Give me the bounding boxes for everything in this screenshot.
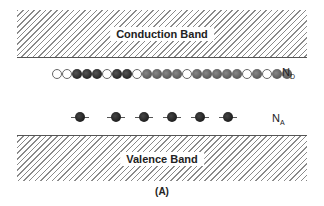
acceptor-dot [75, 112, 85, 122]
donor-state-gray [222, 69, 232, 79]
donor-state-dark [92, 69, 102, 79]
donor-level-row [52, 69, 292, 79]
donor-state-gray [142, 69, 152, 79]
donor-state-empty [262, 69, 272, 79]
donor-state-gray [172, 69, 182, 79]
donor-state-empty [62, 69, 72, 79]
donor-state-gray [192, 69, 202, 79]
donor-state-gray [162, 69, 172, 79]
donor-state-gray [152, 69, 162, 79]
donor-state-dark [112, 69, 122, 79]
donor-state-empty [52, 69, 62, 79]
acceptor-dot [223, 112, 233, 122]
donor-state-gray [202, 69, 212, 79]
conduction-band-label: Conduction Band [110, 27, 214, 41]
conduction-band: Conduction Band [17, 10, 307, 58]
donor-state-empty [182, 69, 192, 79]
acceptor-state [71, 112, 89, 122]
figure-caption: (A) [0, 186, 324, 197]
donor-state-empty [132, 69, 142, 79]
acceptor-dot [111, 112, 121, 122]
acceptor-level-label: NA [272, 112, 285, 126]
acceptor-state [107, 112, 125, 122]
donor-state-empty [242, 69, 252, 79]
donor-state-gray [232, 69, 242, 79]
donor-state-empty [102, 69, 112, 79]
acceptor-dot [167, 112, 177, 122]
acceptor-state [163, 112, 181, 122]
donor-state-dark [122, 69, 132, 79]
acceptor-state [219, 112, 237, 122]
donor-state-dark [72, 69, 82, 79]
valence-band-label: Valence Band [120, 152, 204, 166]
valence-band: Valence Band [17, 135, 307, 181]
donor-state-gray [272, 69, 282, 79]
acceptor-dot [195, 112, 205, 122]
donor-level-label: ND [282, 66, 295, 80]
donor-state-gray [252, 69, 262, 79]
acceptor-dot [139, 112, 149, 122]
donor-state-gray [212, 69, 222, 79]
donor-state-dark [82, 69, 92, 79]
acceptor-state [135, 112, 153, 122]
acceptor-state [191, 112, 209, 122]
